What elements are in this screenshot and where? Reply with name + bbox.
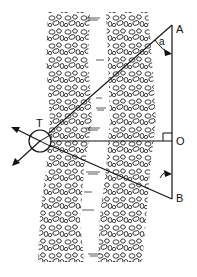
angle-b-arrowhead (164, 170, 172, 177)
label-T: T (36, 117, 43, 129)
right-angle-marker (163, 133, 172, 141)
label-O: O (176, 135, 185, 147)
label-angle-a: a (159, 36, 165, 47)
label-B: B (176, 192, 183, 204)
label-A: A (176, 23, 184, 35)
angle-a-arrowhead (164, 49, 172, 56)
arrow-lower-left-icon (12, 158, 20, 166)
right-gravel-bank (98, 12, 156, 262)
river-survey-diagram: A a O B T (0, 0, 197, 277)
